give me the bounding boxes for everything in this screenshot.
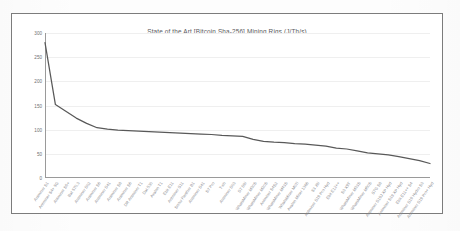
y-axis-tick-label: 50 [37, 151, 42, 156]
y-axis-tick-label: 100 [34, 127, 42, 132]
y-axis-tick-label: 200 [34, 79, 42, 84]
y-axis-tick-label: 0 [39, 176, 42, 181]
screenshot-canvas: State of the Art [Bitcoin Sha-256] Minin… [0, 0, 460, 231]
series-line [45, 33, 430, 178]
plot-area: 050100150200250300 Antminer S1Antminer S… [45, 33, 430, 178]
y-axis-tick-label: 300 [34, 31, 42, 36]
y-axis-tick-label: 250 [34, 55, 42, 60]
chart-frame: State of the Art [Bitcoin Sha-256] Minin… [11, 13, 443, 214]
y-axis-tick-label: 150 [34, 103, 42, 108]
